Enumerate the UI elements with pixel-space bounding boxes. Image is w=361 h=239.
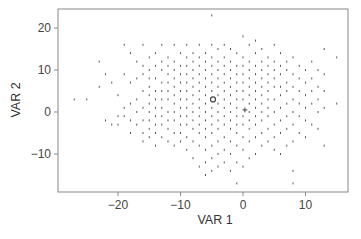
data-point — [243, 115, 244, 117]
data-point — [311, 90, 312, 92]
data-point — [311, 61, 312, 63]
data-point — [174, 103, 175, 105]
data-point — [230, 153, 231, 155]
data-point — [336, 56, 337, 58]
data-point — [136, 77, 137, 79]
data-point — [255, 65, 256, 67]
data-point — [249, 119, 250, 121]
data-point — [255, 124, 256, 126]
data-point — [299, 65, 300, 67]
data-point — [174, 94, 175, 96]
scatter-plot: −20−10010 −1001020 VAR 1 VAR 2 — [0, 0, 361, 239]
data-point — [305, 136, 306, 138]
data-point — [174, 111, 175, 113]
data-point — [118, 124, 119, 126]
data-point — [211, 157, 212, 159]
data-point — [224, 82, 225, 84]
data-point — [124, 44, 125, 46]
data-point — [305, 82, 306, 84]
data-point — [174, 61, 175, 63]
data-point — [236, 132, 237, 134]
data-point — [218, 69, 219, 71]
data-point — [161, 98, 162, 100]
data-point — [149, 56, 150, 58]
data-point — [286, 69, 287, 71]
data-point — [149, 94, 150, 96]
data-point — [161, 44, 162, 46]
data-point — [293, 98, 294, 100]
data-point — [180, 65, 181, 67]
data-point — [168, 56, 169, 58]
data-point — [218, 61, 219, 63]
data-point — [168, 119, 169, 121]
data-point — [180, 132, 181, 134]
data-point — [293, 182, 294, 184]
data-point — [249, 44, 250, 46]
data-point — [224, 161, 225, 163]
data-point — [218, 94, 219, 96]
data-point — [180, 124, 181, 126]
data-point — [168, 140, 169, 142]
data-point — [318, 98, 319, 100]
data-point — [230, 140, 231, 142]
data-point — [199, 115, 200, 117]
data-point — [261, 111, 262, 113]
data-point — [224, 98, 225, 100]
data-point — [305, 107, 306, 109]
data-point — [143, 132, 144, 134]
data-point — [111, 124, 112, 126]
data-point — [186, 149, 187, 151]
data-point — [199, 98, 200, 100]
data-point — [186, 136, 187, 138]
data-point — [155, 132, 156, 134]
data-point — [236, 145, 237, 147]
data-point — [274, 69, 275, 71]
data-point — [136, 111, 137, 113]
data-point — [143, 140, 144, 142]
data-point — [199, 124, 200, 126]
data-point — [230, 170, 231, 172]
data-point — [161, 82, 162, 84]
data-point — [311, 124, 312, 126]
data-point — [211, 132, 212, 134]
data-point — [174, 132, 175, 134]
data-point — [218, 111, 219, 113]
data-point — [249, 140, 250, 142]
data-point — [186, 73, 187, 75]
data-point — [280, 132, 281, 134]
data-point — [86, 98, 87, 100]
data-point — [286, 61, 287, 63]
data-point — [205, 69, 206, 71]
data-point — [261, 61, 262, 63]
data-point — [155, 90, 156, 92]
data-point — [155, 98, 156, 100]
data-point — [280, 86, 281, 88]
data-point — [105, 73, 106, 75]
data-point — [286, 90, 287, 92]
data-point — [293, 73, 294, 75]
data-point — [211, 14, 212, 16]
data-point — [180, 52, 181, 54]
data-point — [155, 77, 156, 79]
data-point — [243, 65, 244, 67]
data-point — [224, 90, 225, 92]
data-point — [211, 44, 212, 46]
data-point — [224, 107, 225, 109]
data-point — [186, 98, 187, 100]
data-point — [236, 90, 237, 92]
data-point — [293, 124, 294, 126]
data-point — [261, 132, 262, 134]
y-axis-label: VAR 2 — [9, 82, 23, 117]
data-point — [280, 94, 281, 96]
data-point — [143, 119, 144, 121]
data-point — [205, 94, 206, 96]
data-point — [218, 48, 219, 50]
data-point — [243, 35, 244, 37]
data-point — [243, 90, 244, 92]
data-point — [236, 65, 237, 67]
data-point — [224, 115, 225, 117]
data-point — [199, 44, 200, 46]
data-point — [199, 56, 200, 58]
data-point — [243, 149, 244, 151]
y-tick-label: 20 — [38, 21, 52, 35]
